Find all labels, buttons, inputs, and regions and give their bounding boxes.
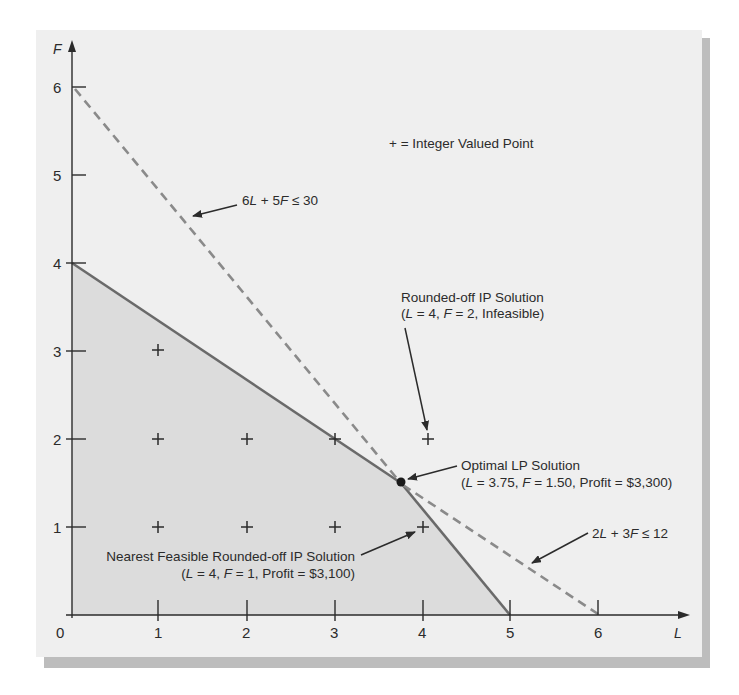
x-tick-label: 5 [506, 624, 514, 641]
x-tick-label: 4 [418, 624, 426, 641]
arrow-constraint1 [193, 205, 237, 216]
nearest-feasible-title: Nearest Feasible Rounded-off IP Solution [106, 549, 355, 564]
x-tick-label: 6 [594, 624, 602, 641]
y-tick-label: 3 [53, 343, 61, 360]
rounded-ip-title: Rounded-off IP Solution [401, 290, 544, 305]
x-tick-label: 3 [330, 624, 338, 641]
optimal-lp-detail: (L = 3.75, F = 1.50, Profit = $3,300) [461, 475, 672, 490]
chart-canvas: F L 1 2 3 4 5 6 0 1 2 3 4 5 6 + = Intege… [0, 0, 739, 695]
rounded-ip-detail: (L = 4, F = 2, Infeasible) [401, 306, 544, 321]
constraint2-label: 2L + 3F ≤ 12 [592, 526, 668, 541]
y-tick-label: 4 [53, 255, 61, 272]
y-tick-label: 5 [53, 167, 61, 184]
y-tick-label: 1 [53, 519, 61, 536]
x-tick-label: 2 [242, 624, 250, 641]
y-axis-title: F [53, 41, 63, 57]
arrow-rounded-ip [405, 328, 427, 430]
constraint1-label: 6L + 5F ≤ 30 [242, 193, 318, 208]
arrow-optimal-lp [408, 466, 457, 479]
y-tick-label: 6 [53, 79, 61, 96]
optimal-lp-title: Optimal LP Solution [461, 458, 580, 473]
plus-icon [422, 433, 434, 445]
x-tick-label: 0 [56, 624, 64, 641]
optimal-lp-point [397, 478, 406, 487]
y-axis-arrow-icon [68, 40, 76, 52]
arrow-constraint2 [532, 533, 588, 563]
y-tick-label: 2 [53, 431, 61, 448]
x-tick-label: 1 [154, 624, 162, 641]
nearest-feasible-detail: (L = 4, F = 1, Profit = $3,100) [181, 566, 355, 581]
x-axis-title: L [674, 625, 682, 641]
legend-text: + = Integer Valued Point [389, 136, 534, 151]
x-axis-arrow-icon [678, 611, 690, 619]
